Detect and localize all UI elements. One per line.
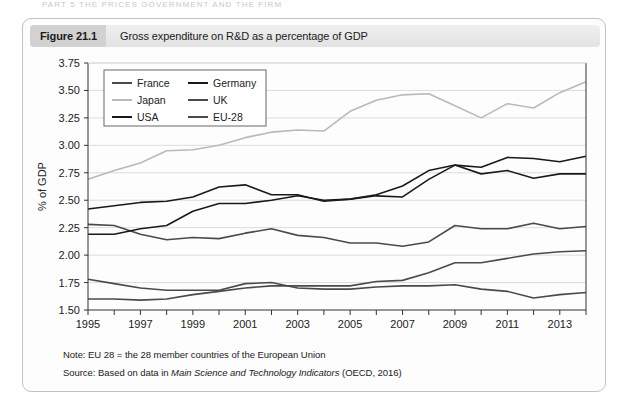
x-tick-label: 2009 <box>443 318 467 330</box>
y-tick-label: 3.25 <box>59 112 80 124</box>
legend-label-japan: Japan <box>137 94 166 106</box>
figure-number-box: Figure 21.1 <box>30 25 106 47</box>
legend-label-uk: UK <box>213 94 228 106</box>
x-tick-label: 2013 <box>548 318 572 330</box>
legend-label-usa: USA <box>137 111 159 123</box>
y-tick-label: 2.00 <box>59 249 80 261</box>
series-line-usa <box>88 165 586 209</box>
x-tick-label: 1997 <box>128 318 152 330</box>
x-tick-label: 2005 <box>338 318 362 330</box>
y-tick-label: 3.00 <box>59 139 80 151</box>
chart-plot-area: 1.501.752.002.252.502.753.003.253.503.75… <box>30 53 600 353</box>
source-text-after: (OECD, 2016) <box>342 367 402 378</box>
x-axis-ticks <box>88 310 586 315</box>
figure-number: Figure 21.1 <box>40 30 97 42</box>
legend-label-france: France <box>137 77 170 89</box>
x-tick-label: 2001 <box>233 318 257 330</box>
series-line-uk <box>88 279 586 298</box>
y-tick-label: 2.25 <box>59 222 80 234</box>
note-text: EU 28 = the 28 member countries of the E… <box>88 349 325 360</box>
note-prefix: Note: <box>63 349 85 360</box>
y-tick-label: 1.75 <box>59 277 80 289</box>
y-tick-label: 3.50 <box>59 84 80 96</box>
legend-label-germany: Germany <box>213 77 257 89</box>
running-head: PART 5 THE PRICES GOVERNMENT AND THE FIR… <box>42 0 282 9</box>
source-row: Source: Based on data in Main Science an… <box>63 367 583 378</box>
figure-header: Figure 21.1 Gross expenditure on R&D as … <box>30 25 600 47</box>
chart-legend: FranceGermanyJapanUKUSAEU-28 <box>104 70 266 126</box>
x-axis-tick-labels: 1995199719992001200320052007200920112013 <box>76 318 572 330</box>
source-prefix: Source: <box>63 367 95 378</box>
x-tick-label: 2011 <box>496 318 520 330</box>
y-axis-ticks <box>84 63 88 310</box>
y-axis-title-text: % of GDP <box>36 162 48 211</box>
line-chart: 1.501.752.002.252.502.753.003.253.503.75… <box>30 53 600 353</box>
y-axis-tick-labels: 1.501.752.002.252.502.753.003.253.503.75 <box>59 57 80 316</box>
source-text-before: Based on data in <box>98 367 169 378</box>
y-tick-label: 2.75 <box>59 167 80 179</box>
x-tick-label: 2003 <box>285 318 309 330</box>
x-tick-label: 1999 <box>181 318 205 330</box>
source-title-italic: Main Science and Technology Indicators <box>171 367 339 378</box>
figure-card: Figure 21.1 Gross expenditure on R&D as … <box>22 18 606 392</box>
y-tick-label: 1.50 <box>59 304 80 316</box>
series-line-germany <box>88 156 586 234</box>
legend-label-eu-28: EU-28 <box>213 111 243 123</box>
x-tick-label: 1995 <box>76 318 100 330</box>
y-tick-label: 3.75 <box>59 57 80 69</box>
figure-notes: Note: EU 28 = the 28 member countries of… <box>63 349 583 385</box>
figure-caption: Gross expenditure on R&D as a percentage… <box>106 30 368 42</box>
note-row: Note: EU 28 = the 28 member countries of… <box>63 349 583 360</box>
y-axis-title: % of GDP <box>36 162 48 211</box>
y-tick-label: 2.50 <box>59 194 80 206</box>
x-tick-label: 2007 <box>390 318 414 330</box>
